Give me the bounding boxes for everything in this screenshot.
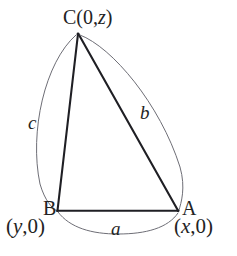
vertex-C-coord-close: ) xyxy=(106,6,113,28)
arc-c xyxy=(37,35,76,211)
vertex-C-coord-first: 0 xyxy=(83,6,93,28)
vertex-B-coord-close: ) xyxy=(38,214,45,238)
vertex-B-coord-first: y xyxy=(13,214,22,238)
edge-c-segment xyxy=(58,34,79,211)
vertex-C-coord-second: z xyxy=(98,6,106,28)
vertex-A-coord-second: 0 xyxy=(196,214,207,238)
side-label-a: a xyxy=(111,219,121,238)
vertex-C-coord-open: ( xyxy=(76,6,83,28)
vertex-point-A xyxy=(177,210,179,212)
geometry-figure: C(0,z) B (y,0) A (x,0) c b a xyxy=(0,0,237,256)
vertex-A-coord-first: x xyxy=(181,214,190,238)
vertex-point-C xyxy=(77,33,80,36)
vertex-name-C: C xyxy=(63,6,76,28)
triangle-edges xyxy=(57,34,179,211)
side-label-c: c xyxy=(28,113,36,132)
vertex-B-coord-open: ( xyxy=(6,214,13,238)
vertex-point-B xyxy=(56,210,58,212)
vertex-coord-A: (x,0) xyxy=(174,216,213,237)
vertex-coord-B: (y,0) xyxy=(6,216,45,237)
edge-b-segment xyxy=(79,34,179,211)
side-label-b: b xyxy=(140,103,150,122)
arc-b xyxy=(80,35,183,210)
vertex-A-coord-close: ) xyxy=(206,214,213,238)
vertex-B-coord-second: 0 xyxy=(28,214,39,238)
vertex-label-C: C(0,z) xyxy=(63,7,112,27)
vertex-A-coord-open: ( xyxy=(174,214,181,238)
